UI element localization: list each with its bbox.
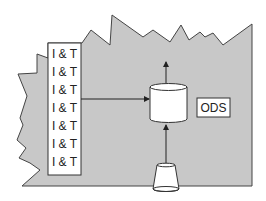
ods-label-box: ODS [197,98,230,117]
ods-label: ODS [200,101,226,115]
it-item-4: I & T [52,119,78,133]
it-item-0: I & T [52,47,78,61]
it-item-1: I & T [52,65,78,79]
it-item-6: I & T [52,155,78,169]
it-item-3: I & T [52,101,78,115]
ods-diagram: I & T I & T I & T I & T I & T I & T I & … [0,0,266,201]
integration-transformation-box: I & T I & T I & T I & T I & T I & T I & … [48,43,81,175]
database-cylinder-icon [150,84,187,123]
it-item-2: I & T [52,83,78,97]
it-item-5: I & T [52,137,78,151]
source-cone-icon [153,163,179,191]
